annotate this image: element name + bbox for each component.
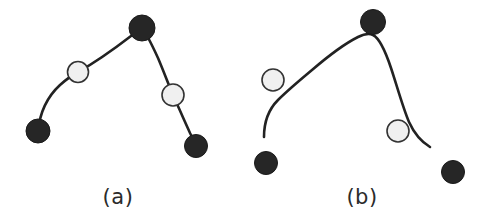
control-point-dark-lower-left [26, 119, 50, 143]
spline-comparison-figure: (a) (b) [0, 0, 490, 222]
control-point-light-left [68, 62, 89, 83]
control-point-dark-lower-left [255, 152, 278, 175]
panel-caption-b: (b) [346, 185, 377, 209]
control-point-dark-apex [129, 15, 155, 41]
panel-b [255, 10, 465, 184]
figure-canvas [0, 0, 490, 222]
control-point-dark-lower-right [185, 135, 208, 158]
control-point-light-right [387, 120, 409, 142]
control-point-light-right [162, 84, 184, 106]
panel-a [26, 15, 208, 158]
panel-caption-a: (a) [103, 185, 134, 209]
control-point-dark-lower-right [442, 161, 465, 184]
control-point-dark-apex [361, 10, 386, 35]
control-point-light-left [262, 69, 284, 91]
